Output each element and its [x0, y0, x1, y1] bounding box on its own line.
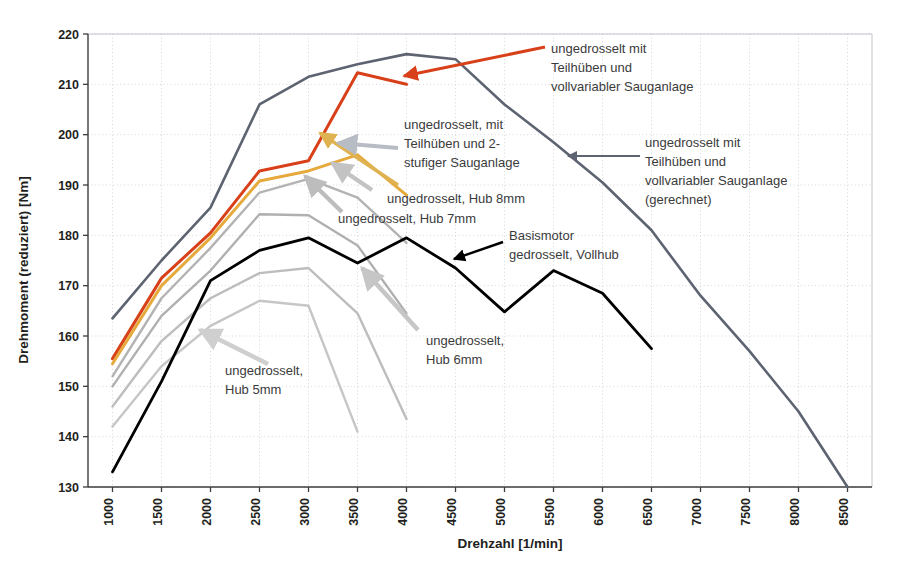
y-tick-label: 130: [58, 481, 79, 495]
anno-hub-8mm: ungedrosselt, Hub 8mm: [387, 191, 525, 206]
anno-hub-7mm: ungedrosselt, Hub 7mm: [338, 211, 476, 226]
arrow-hub7-icon: [305, 176, 342, 212]
anno-hub-5mm: ungedrosselt,Hub 5mm: [225, 363, 303, 397]
x-tick-label: 8000: [788, 498, 802, 526]
anno-2stufige-sauganlage: ungedrosselt, mitTeilhüben und 2-stufige…: [404, 117, 520, 170]
chart-container: 130140150160170180190200210220 100015002…: [0, 0, 901, 573]
x-tick-label: 8500: [837, 498, 851, 526]
x-tick-label: 6000: [592, 498, 606, 526]
y-tick-label: 170: [58, 279, 79, 293]
arrow-hub6-icon: [362, 268, 418, 330]
x-tick-label: 4500: [445, 498, 459, 526]
x-tick-label: 3500: [347, 498, 361, 526]
anno-gerechnet: ungedrosselt mitTeilhüben undvollvariabl…: [645, 135, 787, 207]
x-tick-label: 7000: [690, 498, 704, 526]
x-tick-label: 7500: [739, 498, 753, 526]
anno-hub-6mm: ungedrosselt,Hub 6mm: [426, 333, 504, 367]
x-tick-label: 1000: [102, 498, 116, 526]
x-tick-label: 4000: [396, 498, 410, 526]
x-tick-label: 3000: [298, 498, 312, 526]
x-tick-label: 1500: [151, 498, 165, 526]
y-tick-label: 180: [58, 229, 79, 243]
anno-basismotor: Basismotorgedrosselt, Vollhub: [509, 228, 619, 262]
annotation-labels: ungedrosselt mitTeilhüben undvollvariabl…: [225, 41, 787, 397]
anno-ungedrosselt-vollvariabel: ungedrosselt mitTeilhüben undvollvariabl…: [551, 41, 693, 94]
x-tick-label: 5500: [543, 498, 557, 526]
arrow-black-icon: [454, 242, 503, 259]
axis-lines: [83, 34, 872, 492]
y-tick-label: 140: [58, 430, 79, 444]
arrow-orange-icon: [320, 133, 398, 185]
y-tick-label: 190: [58, 179, 79, 193]
arrow-hub8-icon: [332, 163, 372, 190]
torque-speed-chart: 130140150160170180190200210220 100015002…: [0, 0, 901, 573]
x-tick-label: 2000: [200, 498, 214, 526]
y-tick-label: 160: [58, 330, 79, 344]
grid-lines: [88, 34, 872, 487]
y-axis-tick-labels: 130140150160170180190200210220: [58, 28, 79, 495]
arrow-gray-2stufig-icon: [338, 143, 398, 148]
arrow-red-icon: [404, 47, 545, 76]
x-tick-label: 2500: [249, 498, 263, 526]
x-axis-title: Drehzahl [1/min]: [457, 536, 562, 551]
y-tick-label: 200: [58, 128, 79, 142]
y-axis-title: Drehmoment (reduziert) [Nm]: [16, 176, 31, 364]
x-tick-label: 5000: [494, 498, 508, 526]
x-tick-label: 6500: [641, 498, 655, 526]
y-tick-label: 220: [58, 28, 79, 42]
x-axis-tick-labels: 1000150020002500300035004000450050005500…: [102, 498, 851, 526]
y-tick-label: 210: [58, 78, 79, 92]
y-tick-label: 150: [58, 380, 79, 394]
